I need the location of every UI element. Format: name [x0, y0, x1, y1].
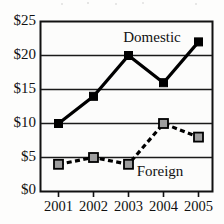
datapoint-domestic-2004: [160, 79, 168, 87]
x-tick-label-2001: 2001: [44, 198, 73, 214]
y-tick-label-0: $0: [21, 181, 36, 197]
datapoint-domestic-2002: [90, 92, 98, 100]
datapoint-foreign-2005: [194, 133, 203, 142]
line-chart: $25 $20 $15 $10 $5 $0 2001 2002 2003 200…: [0, 0, 224, 224]
y-tick-label-10: $10: [14, 114, 37, 130]
y-tick-label-20: $20: [14, 46, 37, 62]
datapoint-domestic-2003: [125, 52, 133, 60]
series-annotation-foreign: Foreign: [137, 163, 184, 179]
datapoint-foreign-2004: [159, 119, 168, 128]
datapoint-domestic-2005: [195, 38, 203, 46]
x-tick-label-2005: 2005: [184, 198, 213, 214]
y-tick-label-5: $5: [21, 148, 36, 164]
x-tick-label-2003: 2003: [114, 198, 143, 214]
x-axis-ticks: [59, 192, 199, 197]
y-axis: $25 $20 $15 $10 $5 $0: [14, 12, 37, 197]
datapoint-domestic-2001: [55, 120, 63, 128]
datapoint-foreign-2002: [89, 153, 98, 162]
x-axis: 2001 2002 2003 2004 2005: [44, 198, 213, 214]
series-annotation-domestic: Domestic: [123, 29, 181, 45]
y-tick-label-15: $15: [14, 80, 37, 96]
chart-canvas: $25 $20 $15 $10 $5 $0 2001 2002 2003 200…: [0, 0, 224, 224]
x-tick-label-2004: 2004: [149, 198, 179, 214]
datapoint-foreign-2001: [54, 160, 63, 169]
datapoint-foreign-2003: [124, 160, 133, 169]
y-tick-label-25: $25: [14, 12, 37, 28]
x-tick-label-2002: 2002: [79, 198, 108, 214]
